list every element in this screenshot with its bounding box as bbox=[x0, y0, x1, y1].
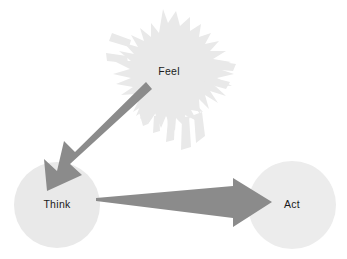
think-to-act-arrow-shape bbox=[96, 178, 272, 227]
edge-feel-to-think[interactable] bbox=[44, 82, 152, 191]
feel-splat-drip-right bbox=[166, 119, 175, 142]
feel-to-think-arrow-shape bbox=[44, 82, 152, 191]
diagram-canvas: Feel Think Act bbox=[0, 0, 347, 259]
feel-label: Feel bbox=[158, 65, 180, 77]
think-label: Think bbox=[43, 198, 71, 210]
act-label: Act bbox=[284, 198, 300, 210]
node-feel[interactable]: Feel bbox=[106, 9, 236, 150]
edge-think-to-act[interactable] bbox=[96, 178, 272, 227]
feel-splat-drip-mid bbox=[153, 115, 160, 133]
feel-splat-drip-tail bbox=[194, 112, 205, 143]
feel-splat-drip-far-right bbox=[181, 116, 191, 150]
feel-think-act-diagram: Feel Think Act bbox=[0, 0, 347, 259]
feel-splat-spike-left-upper bbox=[109, 33, 131, 47]
